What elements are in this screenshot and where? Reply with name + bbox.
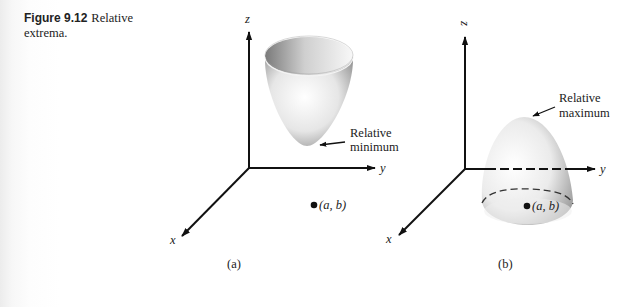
bowl-surface (265, 36, 353, 146)
panel-a: z y x Relative minimum (a, b) (a) (169, 12, 399, 271)
annotation-max-line1: Relative (559, 91, 601, 105)
y-axis-label-b: y (598, 162, 606, 176)
minimum-pointer-arrow (320, 142, 345, 145)
annotation-min-line2: minimum (350, 140, 399, 154)
x-axis-label-a: x (169, 233, 176, 247)
maximum-pointer-arrow (533, 107, 555, 116)
panel-b: z y x Relative maximum (a, b) (b) (385, 20, 610, 271)
point-marker-b (524, 203, 531, 210)
figure-graphics: z y x Relative minimum (a, b) (a) z (0, 0, 627, 307)
point-label-b: (a, b) (532, 199, 559, 213)
x-axis-b (399, 169, 465, 235)
panel-label-b: (b) (498, 257, 513, 271)
point-label-a: (a, b) (319, 198, 346, 212)
annotation-min-line1: Relative (350, 126, 392, 140)
panel-label-a: (a) (227, 257, 241, 271)
z-axis-label-b: z (458, 20, 472, 26)
x-axis-a (182, 168, 249, 236)
z-axis-label-a: z (244, 12, 250, 26)
y-axis-label-a: y (378, 161, 386, 175)
x-axis-label-b: x (385, 232, 392, 246)
annotation-max-line2: maximum (559, 106, 610, 120)
point-marker-a (311, 202, 318, 209)
